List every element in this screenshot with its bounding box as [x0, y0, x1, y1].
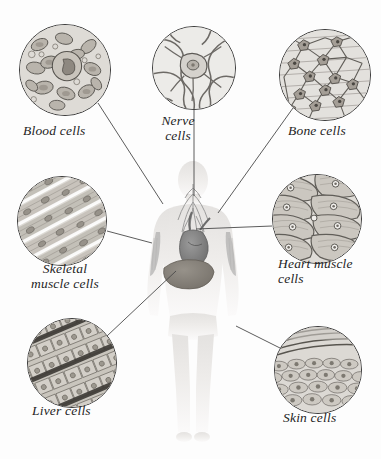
label-blood-cells: Blood cells: [23, 124, 86, 139]
diagram-canvas: Blood cells: [0, 0, 381, 459]
label-liver-cells: Liver cells: [32, 404, 91, 419]
blood-cells-art: [20, 25, 110, 115]
leader-line-skin: [236, 326, 280, 348]
micrograph-blood-cells[interactable]: [19, 24, 111, 116]
leader-line-skeletal-muscle: [107, 231, 152, 243]
micrograph-heart-muscle-cells[interactable]: [272, 174, 362, 264]
skin-cells-art: [275, 327, 361, 413]
micrograph-nerve-cells[interactable]: [152, 26, 236, 110]
micrograph-skeletal-muscle-cells[interactable]: [17, 176, 107, 266]
label-bone-cells: Bone cells: [288, 124, 346, 139]
liver-cells-art: [28, 319, 116, 407]
leader-line-heart-muscle: [196, 226, 272, 229]
neuron-soma: [180, 53, 207, 78]
micrograph-bone-cells[interactable]: [279, 29, 371, 121]
skeletal-muscle-art: [18, 177, 106, 265]
label-skin-cells: Skin cells: [283, 411, 336, 426]
micrograph-liver-cells[interactable]: [27, 318, 117, 408]
label-nerve-cells: Nerve cells: [143, 114, 213, 143]
micrograph-skin-cells[interactable]: [274, 326, 362, 414]
label-heart-muscle-cells: Heart muscle cells: [278, 257, 353, 286]
heart-muscle-art: [273, 175, 361, 263]
nerve-cells-art: [153, 27, 235, 109]
bone-cells-art: [280, 30, 370, 120]
label-skeletal-muscle-cells: Skeletal muscle cells: [12, 262, 118, 291]
